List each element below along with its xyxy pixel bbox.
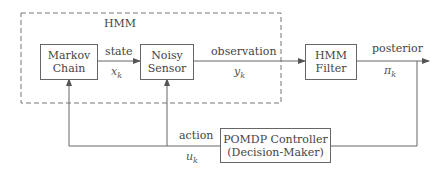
posterior-symbol: πk — [384, 64, 396, 79]
hmm-filter-block: HMMFilter — [305, 44, 357, 80]
hmm-filter-line2: Filter — [316, 62, 347, 75]
markov-chain-block: MarkovChain — [40, 44, 98, 80]
observation-symbol: yk — [234, 65, 245, 80]
markov-chain-line2: Chain — [53, 62, 86, 75]
action-symbol: uk — [186, 150, 198, 165]
pomdp-controller-line1: POMDP Controller — [223, 133, 328, 146]
pomdp-controller-line2: (Decision-Maker) — [227, 146, 323, 159]
action-label: action — [179, 129, 213, 142]
markov-chain-line1: Markov — [48, 49, 91, 62]
noisy-sensor-line1: Noisy — [151, 49, 183, 62]
state-label: state — [105, 45, 133, 58]
observation-label: observation — [211, 45, 277, 58]
noisy-sensor-block: NoisySensor — [140, 44, 194, 80]
state-symbol: xk — [111, 65, 122, 80]
hmm-group-label: HMM — [104, 17, 136, 30]
pomdp-controller-block: POMDP Controller(Decision-Maker) — [220, 128, 331, 163]
noisy-sensor-line2: Sensor — [148, 62, 187, 75]
hmm-filter-line1: HMM — [315, 49, 347, 62]
posterior-label: posterior — [372, 42, 423, 55]
